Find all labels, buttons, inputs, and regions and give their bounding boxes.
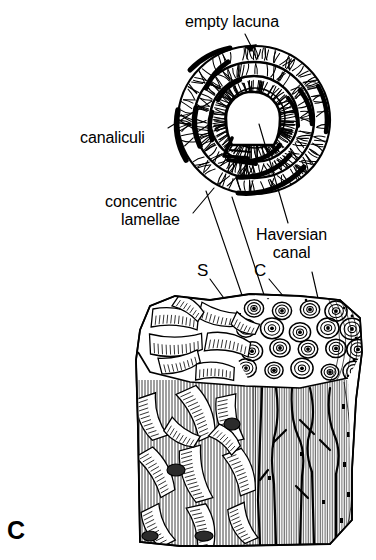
label-canaliculi: canaliculi (80, 129, 145, 147)
label-haversian-canal-line1: Haversian (256, 226, 327, 243)
label-haversian-canal-line2: canal (256, 244, 327, 262)
osteon-group (177, 46, 330, 194)
bone-structure-figure: empty lacuna canaliculi concentric lamel… (0, 0, 376, 560)
panel-letter: C (7, 516, 25, 545)
bone-block-group (130, 290, 370, 552)
marker-compact-bone: C (254, 262, 266, 280)
label-concentric-lamellae: concentric lamellae (105, 193, 180, 229)
label-concentric-lamellae-line2: lamellae (105, 211, 180, 229)
marker-spongy-bone: S (197, 262, 208, 280)
bone-illustration (0, 0, 376, 560)
label-haversian-canal: Haversian canal (256, 226, 327, 262)
label-concentric-lamellae-line1: concentric (105, 193, 177, 210)
label-empty-lacuna: empty lacuna (185, 13, 279, 31)
